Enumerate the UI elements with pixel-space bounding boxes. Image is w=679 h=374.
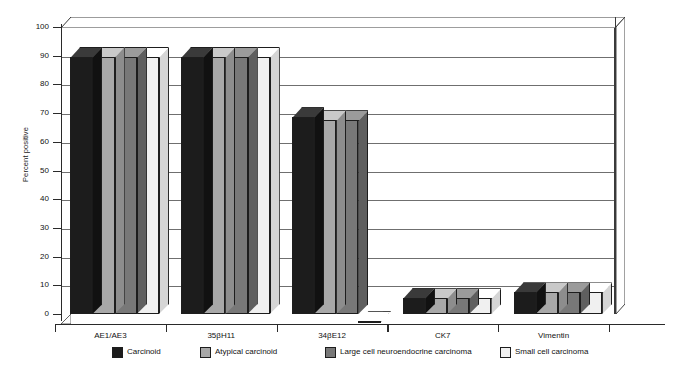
- bar-side-face: [159, 47, 169, 314]
- chart-figure: Percent positive 1009080706050403020100 …: [0, 0, 679, 374]
- legend-item[interactable]: Carcinoid: [112, 345, 161, 359]
- y-axis-tick-mark: [53, 257, 62, 258]
- bar: [70, 57, 92, 314]
- legend-swatch: [500, 347, 511, 358]
- legend-label: Small cell carcinoma: [515, 348, 588, 356]
- legend-swatch: [112, 347, 123, 358]
- y-axis-tick-mark: [53, 142, 62, 143]
- bar-side-face: [358, 110, 368, 314]
- bar: [292, 117, 314, 314]
- x-axis-tick-mark: [609, 324, 610, 332]
- x-axis-category-label: CK7: [387, 331, 498, 340]
- y-axis-tick-mark: [53, 171, 62, 172]
- bar: [514, 292, 536, 314]
- bar: [181, 57, 203, 314]
- y-axis-tick-mark: [53, 228, 62, 229]
- x-axis-category-label: Vimentin: [498, 331, 609, 340]
- y-axis-tick-mark: [53, 27, 62, 28]
- chart-legend: CarcinoidAtypical carcinoidLarge cell ne…: [0, 345, 679, 361]
- bar-side-face: [270, 47, 280, 314]
- bar: [358, 321, 380, 323]
- x-axis-category-label: 34βE12: [277, 331, 388, 340]
- y-axis-tick-mark: [53, 56, 62, 57]
- bar-side-face: [336, 110, 346, 314]
- legend-item[interactable]: Atypical carcinoid: [200, 345, 277, 359]
- legend-item[interactable]: Large cell neuroendocrine carcinoma: [325, 345, 472, 359]
- y-axis-tick-mark: [53, 314, 62, 315]
- y-axis-tick-mark: [53, 199, 62, 200]
- y-axis-tick-mark: [53, 285, 62, 286]
- y-axis-tick-mark: [53, 84, 62, 85]
- bars-layer: [0, 0, 679, 374]
- bar-side-face: [203, 47, 213, 314]
- bar-side-face: [137, 47, 147, 314]
- y-axis-tick-mark: [53, 113, 62, 114]
- bar-side-face: [115, 47, 125, 314]
- legend-swatch: [325, 347, 336, 358]
- bar-side-face: [248, 47, 258, 314]
- legend-item[interactable]: Small cell carcinoma: [500, 345, 588, 359]
- bar-side-face: [314, 107, 324, 314]
- legend-label: Carcinoid: [127, 348, 161, 356]
- legend-label: Atypical carcinoid: [215, 348, 277, 356]
- x-axis-category-label: 35βH11: [166, 331, 277, 340]
- bar-side-face: [92, 47, 102, 314]
- x-axis-category-label: AE1/AE3: [55, 331, 166, 340]
- bar: [403, 298, 425, 314]
- legend-swatch: [200, 347, 211, 358]
- bar-side-face: [225, 47, 235, 314]
- legend-label: Large cell neuroendocrine carcinoma: [340, 348, 472, 356]
